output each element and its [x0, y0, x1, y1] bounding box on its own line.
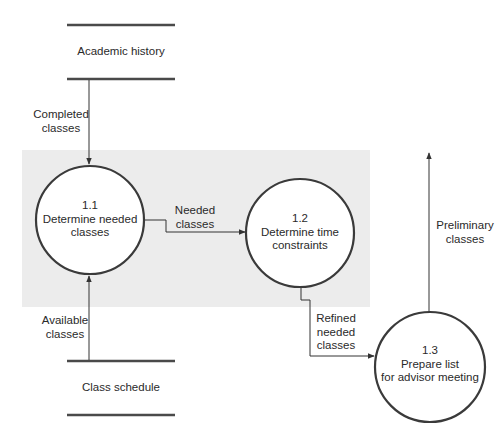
process-name-line: Determine time — [246, 226, 354, 240]
flow-label-line: Needed — [162, 204, 228, 218]
flow-label-line: classes — [313, 339, 359, 353]
flow-label-needed-classes: Needed classes — [162, 204, 228, 231]
data-store-label-class-schedule: Class schedule — [67, 381, 175, 395]
process-name-line: classes — [36, 226, 144, 240]
flow-label-line: Refined — [313, 312, 359, 326]
process-name-line: constraints — [246, 239, 354, 253]
flow-label-available-classes: Available classes — [32, 314, 98, 341]
flow-label-line: needed — [313, 326, 359, 340]
process-number: 1.1 — [36, 199, 144, 213]
process-name-line: for advisor meeting — [372, 371, 488, 385]
process-1-2-label: 1.2 Determine time constraints — [246, 212, 354, 253]
flow-label-refined-needed-classes: Refined needed classes — [313, 312, 359, 353]
process-number: 1.2 — [246, 212, 354, 226]
process-1-3-label: 1.3 Prepare list for advisor meeting — [372, 344, 488, 385]
process-number: 1.3 — [372, 344, 488, 358]
flow-label-line: classes — [430, 233, 500, 247]
process-1-1-label: 1.1 Determine needed classes — [36, 199, 144, 240]
flow-label-line: Preliminary — [430, 219, 500, 233]
flow-label-preliminary-classes: Preliminary classes — [430, 219, 500, 246]
process-name-line: Determine needed — [36, 213, 144, 227]
flow-label-line: classes — [162, 218, 228, 232]
flow-label-line: Available — [32, 314, 98, 328]
data-store-label-academic-history: Academic history — [67, 45, 175, 59]
flow-label-line: Completed — [28, 108, 94, 122]
flow-label-line: classes — [28, 122, 94, 136]
flow-label-line: classes — [32, 328, 98, 342]
flow-label-completed-classes: Completed classes — [28, 108, 94, 135]
process-name-line: Prepare list — [372, 358, 488, 372]
